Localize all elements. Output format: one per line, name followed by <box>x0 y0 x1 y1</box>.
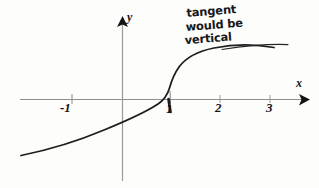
curve-cube-root <box>21 45 274 155</box>
annotation-tangent-note: tangent would be vertical <box>186 3 244 48</box>
x-tick-label-neg1: -1 <box>60 100 71 116</box>
graph-canvas <box>0 0 319 188</box>
x-tick-label-3: 3 <box>266 100 273 116</box>
x-tick-label-1: 1 <box>166 101 173 117</box>
x-tick-label-2: 2 <box>215 100 222 116</box>
graph-figure: tangent would be vertical y x -1 1 2 3 <box>0 0 319 188</box>
y-axis-label: y <box>127 10 132 25</box>
x-axis-label: x <box>296 76 302 91</box>
y-axis <box>117 16 128 181</box>
